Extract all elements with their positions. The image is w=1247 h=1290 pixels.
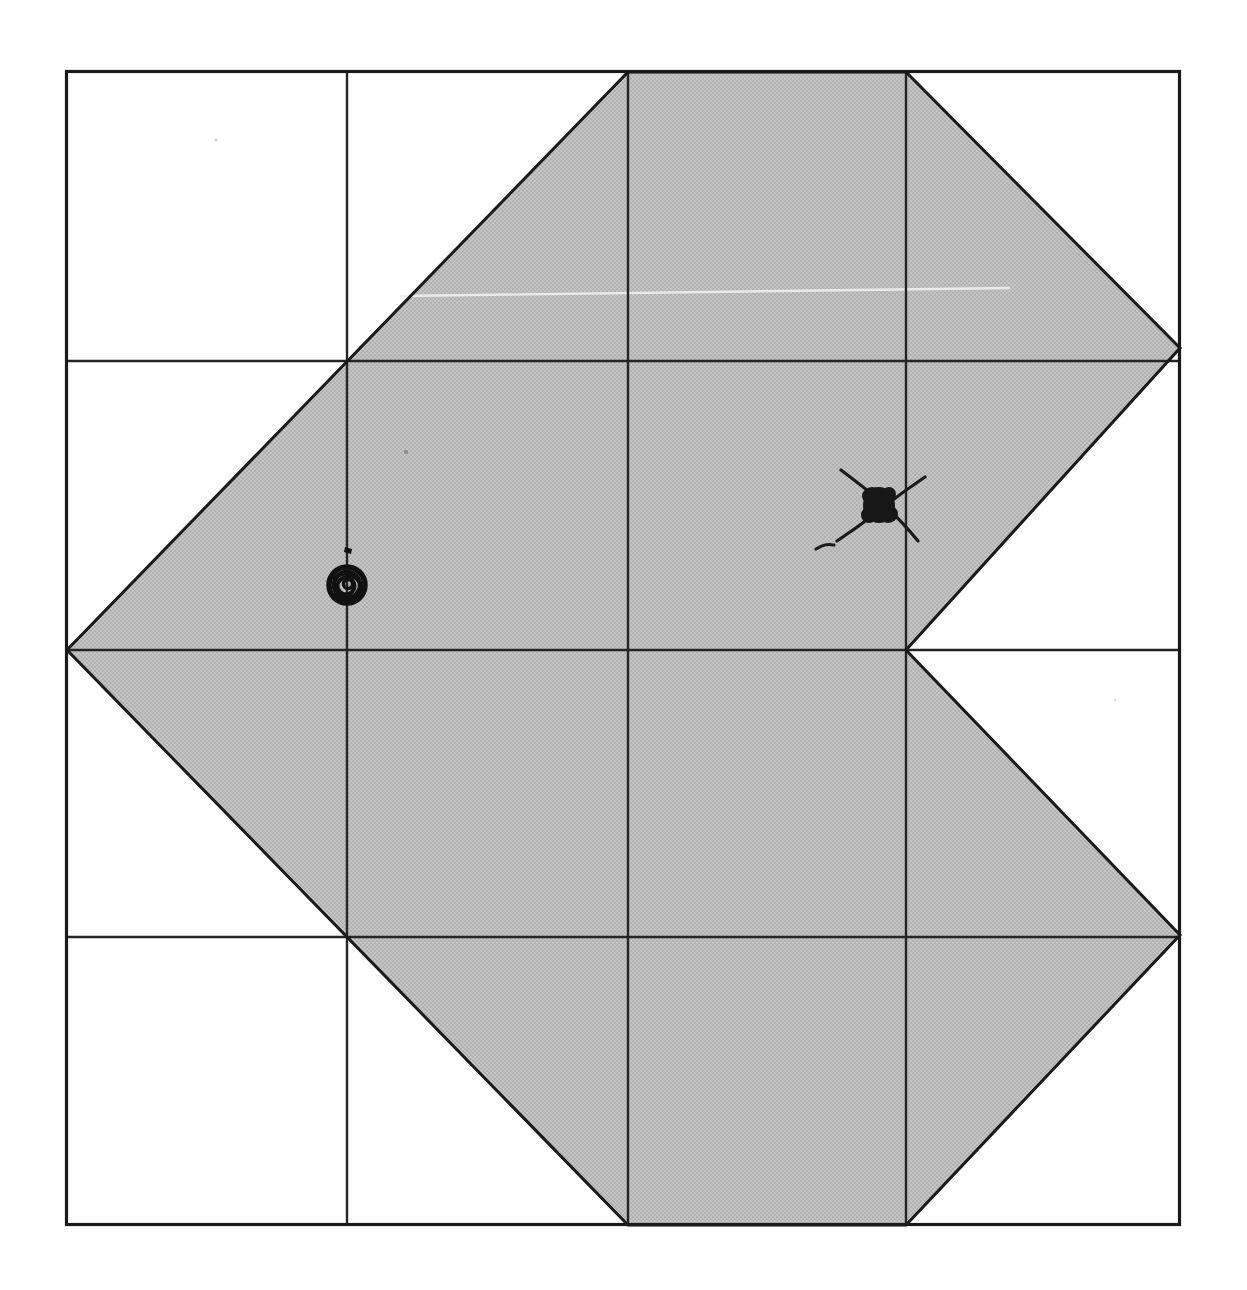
x-cross-blob	[861, 487, 898, 523]
geometric-figure	[0, 0, 1247, 1290]
speck-upper-left	[214, 138, 217, 141]
figure-canvas: Scanned geometric figure on grid	[0, 0, 1247, 1290]
speck-lower-right	[1114, 699, 1117, 702]
speck-interior	[404, 450, 408, 454]
